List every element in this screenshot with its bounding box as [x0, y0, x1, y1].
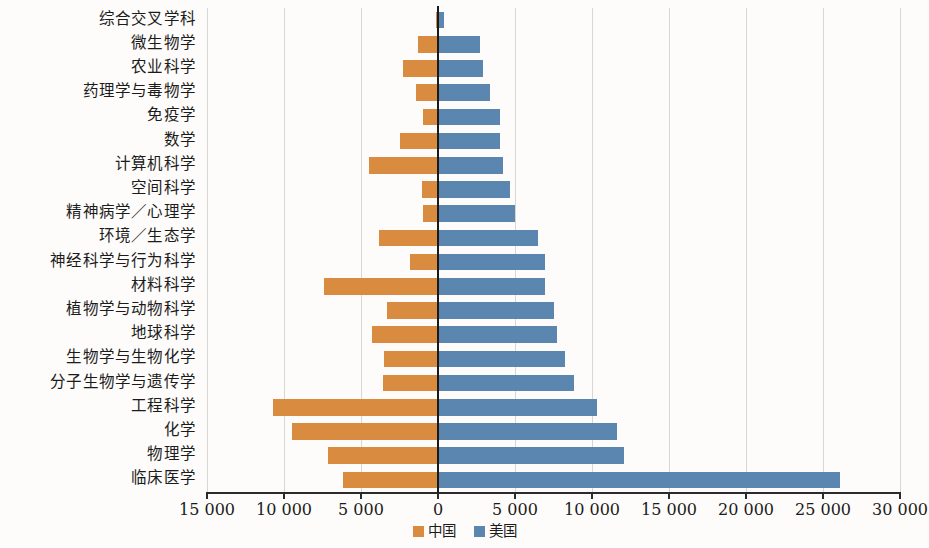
- chart-row: [207, 326, 900, 343]
- category-label: 综合交叉学科: [99, 12, 196, 28]
- chart-row: [207, 157, 900, 174]
- chart-row: [207, 36, 900, 53]
- category-label: 免疫学: [147, 108, 196, 124]
- x-tick-label: 10 000: [564, 500, 620, 519]
- bar-china: [403, 60, 438, 77]
- chart-row: [207, 375, 900, 392]
- chart-row: [207, 84, 900, 101]
- x-tick: [360, 492, 362, 499]
- x-tick: [206, 492, 208, 499]
- bar-china: [423, 109, 438, 126]
- legend-item[interactable]: 中国: [413, 524, 456, 539]
- bar-usa: [438, 472, 840, 489]
- legend-label: 中国: [428, 524, 456, 539]
- x-tick: [668, 492, 670, 499]
- chart-row: [207, 302, 900, 319]
- category-label: 神经科学与行为科学: [50, 254, 196, 270]
- category-label: 农业科学: [131, 60, 196, 76]
- x-tick-label: 15 000: [179, 500, 235, 519]
- bar-china: [273, 399, 438, 416]
- legend-item[interactable]: 美国: [474, 524, 517, 539]
- zero-axis-line: [437, 6, 439, 493]
- legend-label: 美国: [489, 524, 517, 539]
- x-tick-label: 30 000: [872, 500, 928, 519]
- category-axis: 综合交叉学科微生物学农业科学药理学与毒物学免疫学数学计算机科学空间科学精神病学／…: [0, 8, 200, 492]
- gridline: [592, 8, 593, 492]
- x-tick-label: 15 000: [641, 500, 697, 519]
- chart-legend: 中国美国: [0, 524, 929, 539]
- bar-usa: [438, 278, 545, 295]
- bar-china: [387, 302, 438, 319]
- bar-usa: [438, 254, 545, 271]
- bar-usa: [438, 399, 597, 416]
- bar-china: [369, 157, 438, 174]
- x-tick: [745, 492, 747, 499]
- bar-china: [418, 36, 438, 53]
- category-label: 工程科学: [131, 399, 196, 415]
- chart-row: [207, 230, 900, 247]
- bar-usa: [438, 326, 557, 343]
- x-tick: [822, 492, 824, 499]
- bar-usa: [438, 181, 510, 198]
- legend-swatch-icon: [474, 526, 485, 537]
- bar-usa: [438, 230, 538, 247]
- category-label: 精神病学／心理学: [66, 205, 196, 221]
- category-label: 微生物学: [131, 36, 196, 52]
- bar-china: [416, 84, 438, 101]
- bar-china: [343, 472, 438, 489]
- gridline: [207, 8, 208, 492]
- bar-usa: [438, 351, 565, 368]
- x-tick-label: 25 000: [795, 500, 851, 519]
- chart-row: [207, 399, 900, 416]
- bar-china: [372, 326, 438, 343]
- category-label: 植物学与动物科学: [66, 302, 196, 318]
- category-label: 生物学与生物化学: [66, 350, 196, 366]
- chart-row: [207, 254, 900, 271]
- bar-china: [410, 254, 438, 271]
- chart-row: [207, 278, 900, 295]
- category-label: 数学: [164, 133, 196, 149]
- plot-area: [207, 8, 900, 492]
- x-tick-label: 10 000: [256, 500, 312, 519]
- chart-row: [207, 133, 900, 150]
- gridline: [823, 8, 824, 492]
- bar-china: [384, 351, 438, 368]
- gridline: [361, 8, 362, 492]
- gridline: [515, 8, 516, 492]
- x-tick: [437, 492, 439, 499]
- bar-china: [383, 375, 438, 392]
- category-label: 分子生物学与遗传学: [50, 375, 196, 391]
- chart-row: [207, 60, 900, 77]
- chart-row: [207, 181, 900, 198]
- bar-usa: [438, 375, 574, 392]
- bar-usa: [438, 60, 483, 77]
- x-tick: [899, 492, 901, 499]
- category-label: 化学: [164, 423, 196, 439]
- chart-row: [207, 351, 900, 368]
- x-tick-label: 20 000: [718, 500, 774, 519]
- gridline: [669, 8, 670, 492]
- chart-row: [207, 423, 900, 440]
- chart-row: [207, 472, 900, 489]
- category-label: 临床医学: [131, 471, 196, 487]
- bar-usa: [438, 157, 503, 174]
- bar-usa: [438, 302, 554, 319]
- bar-china: [423, 205, 438, 222]
- bar-china: [400, 133, 438, 150]
- category-label: 环境／生态学: [99, 229, 196, 245]
- bar-china: [292, 423, 438, 440]
- bar-usa: [438, 133, 500, 150]
- x-tick-label: 0: [433, 500, 443, 519]
- bar-usa: [438, 205, 515, 222]
- bar-china: [379, 230, 438, 247]
- category-label: 药理学与毒物学: [83, 84, 196, 100]
- chart-row: [207, 109, 900, 126]
- gridline: [746, 8, 747, 492]
- chart-row: [207, 447, 900, 464]
- bar-china: [324, 278, 438, 295]
- x-tick-label: 5 000: [492, 500, 538, 519]
- gridline: [900, 8, 901, 492]
- chart-row: [207, 205, 900, 222]
- bar-usa: [438, 447, 624, 464]
- legend-swatch-icon: [413, 526, 424, 537]
